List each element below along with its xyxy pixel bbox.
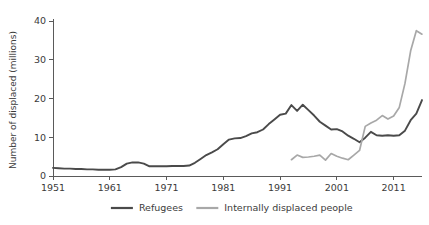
legend-label-1: Internally displaced people xyxy=(224,202,352,213)
line-chart: 010203040 1951196119711981199120012011 R… xyxy=(0,0,429,225)
x-axis-tick-label: 2001 xyxy=(325,182,349,193)
y-axis: 010203040 xyxy=(34,15,53,181)
y-axis-tick-label: 0 xyxy=(40,170,46,181)
x-axis-tick-label: 1971 xyxy=(154,182,178,193)
chart-legend: RefugeesInternally displaced people xyxy=(111,202,353,213)
y-axis-tick-label: 30 xyxy=(34,54,46,65)
x-axis: 1951196119711981199120012011 xyxy=(41,176,422,193)
y-axis-tick-label: 20 xyxy=(34,93,46,104)
legend-label-0: Refugees xyxy=(139,202,183,213)
y-axis-tick-label: 10 xyxy=(34,132,46,143)
series-line-0 xyxy=(53,100,422,170)
x-axis-tick-label: 1991 xyxy=(268,182,292,193)
x-axis-tick-label: 1981 xyxy=(211,182,235,193)
x-axis-tick-label: 1961 xyxy=(98,182,122,193)
data-series-group xyxy=(53,31,422,170)
y-axis-title: Number of displaced (millions) xyxy=(8,31,18,169)
x-axis-tick-label: 2011 xyxy=(382,182,406,193)
y-axis-tick-label: 40 xyxy=(34,15,46,26)
x-axis-tick-label: 1951 xyxy=(41,182,65,193)
chart-container: 010203040 1951196119711981199120012011 R… xyxy=(0,0,429,225)
